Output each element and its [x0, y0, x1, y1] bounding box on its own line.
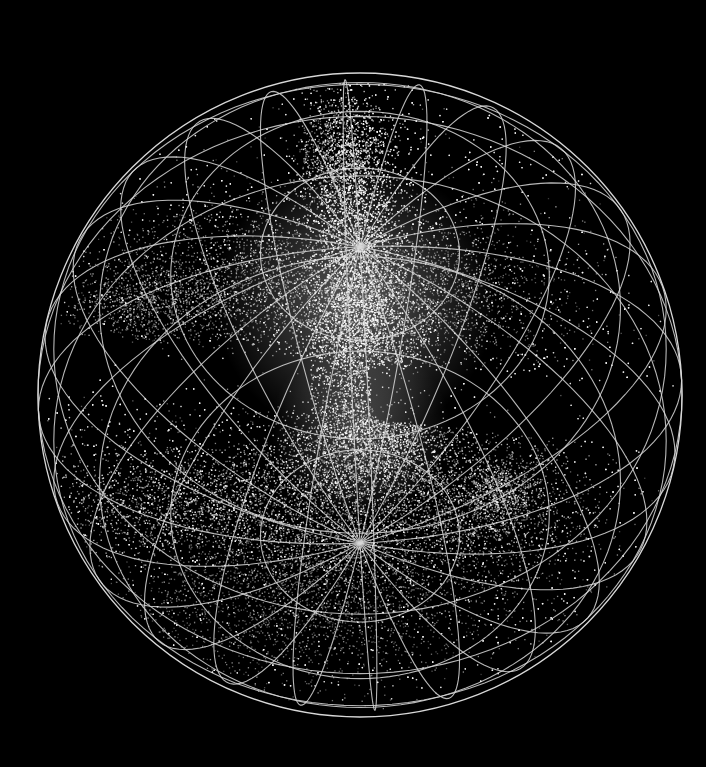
longitude-line — [343, 80, 377, 710]
latitude-line — [171, 111, 550, 439]
longitude-line — [145, 140, 576, 649]
latitude-line — [38, 116, 682, 673]
latitude-line — [171, 351, 550, 678]
longitude-line — [45, 236, 675, 554]
wireframe-sphere — [0, 0, 706, 767]
longitude-line — [73, 200, 647, 589]
galaxy-sphere-visualization[interactable] — [0, 0, 706, 767]
longitude-line — [121, 157, 600, 633]
longitude-line — [38, 246, 681, 544]
longitude-line — [185, 118, 536, 671]
longitude-line — [214, 106, 506, 684]
